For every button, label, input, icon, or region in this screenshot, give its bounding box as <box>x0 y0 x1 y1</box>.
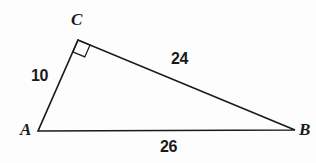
side-length-label-ab: 26 <box>160 139 177 155</box>
side-length-label-cb: 24 <box>171 51 188 67</box>
vertex-label-a: A <box>20 121 31 138</box>
vertex-label-b: B <box>299 121 310 138</box>
vertex-label-c: C <box>71 11 82 28</box>
triangle-figure: C A B 10 24 26 <box>0 0 316 163</box>
side-length-label-ac: 10 <box>31 68 48 84</box>
right-angle-square-icon <box>73 40 90 57</box>
